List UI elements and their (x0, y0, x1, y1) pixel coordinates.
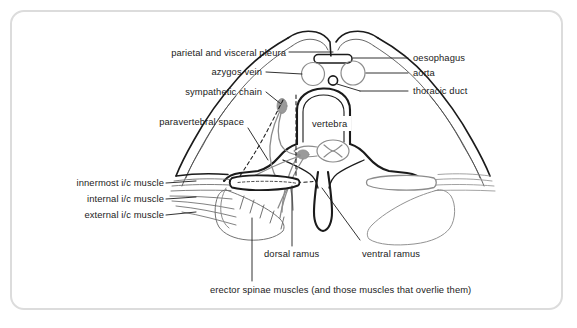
label-internal-ic-muscle: internal i/c muscle (10, 193, 164, 204)
erector-spinae-muscle-right (367, 190, 454, 245)
label-parietal-visceral-pleura: parietal and visceral pleura (30, 47, 286, 58)
label-thoracic-duct: thoracic duct (413, 85, 467, 96)
leader-lines-muscles (166, 181, 196, 215)
innermost-intercostal-muscle (176, 174, 228, 176)
label-sympathetic-chain: sympathetic chain (30, 86, 262, 97)
sympathetic-ganglion (277, 99, 287, 114)
label-external-ic-muscle: external i/c muscle (10, 209, 164, 220)
thoracic-duct-structure (328, 76, 337, 85)
rib-structure-right (367, 175, 437, 190)
label-ventral-ramus: ventral ramus (362, 248, 420, 259)
azygos-vein-structure (302, 63, 325, 86)
rib-structure (230, 175, 300, 190)
spinal-cord-structure (317, 140, 349, 162)
label-vertebra: vertebra (308, 116, 351, 131)
aorta-structure (341, 61, 365, 85)
label-aorta: aorta (413, 67, 435, 78)
label-dorsal-ramus: dorsal ramus (264, 248, 319, 259)
label-innermost-ic-muscle: innermost i/c muscle (10, 177, 164, 188)
leader-innermost (166, 181, 196, 183)
leader-sympathetic (266, 92, 281, 104)
oesophagus-inner (317, 57, 349, 61)
leader-paravertebral (248, 128, 268, 160)
erector-spinae-muscle (215, 190, 284, 240)
leader-azygos (266, 72, 302, 74)
intercostal-muscle-bands-right (435, 174, 495, 191)
leader-lines-bottom (252, 186, 360, 281)
leader-internal (166, 197, 196, 199)
label-paravertebral-space: paravertebral space (30, 116, 244, 127)
label-azygos-vein: azygos vein (30, 66, 262, 77)
intercostal-muscle-bands (170, 179, 236, 225)
figure-canvas: parietal and visceral pleura azygos vein… (0, 0, 577, 328)
leader-ventral-ramus (322, 188, 360, 240)
spinous-process (314, 172, 332, 231)
outer-fascia-line (182, 96, 484, 186)
label-oesophagus: oesophagus (413, 52, 465, 63)
label-erector-spinae-muscles: erector spinae muscles (and those muscle… (210, 284, 471, 295)
